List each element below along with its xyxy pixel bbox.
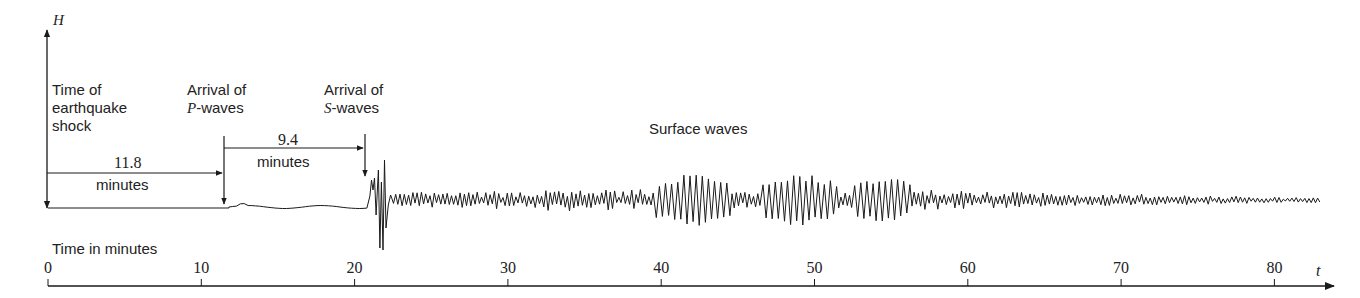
tick-label: 20 xyxy=(347,259,363,277)
tick-label: 10 xyxy=(193,259,209,277)
p-symbol: P xyxy=(187,100,196,116)
tick-label: 70 xyxy=(1113,259,1129,277)
s-symbol: S xyxy=(324,100,332,116)
interval1-value: 11.8 xyxy=(114,154,141,172)
interval1-unit: minutes xyxy=(96,176,149,194)
shock-label-line1: Time of xyxy=(52,81,127,99)
p-arrival-line1: Arrival of xyxy=(187,81,246,99)
tick-label: 80 xyxy=(1266,259,1282,277)
shock-label-line2: earthquake xyxy=(52,99,127,117)
y-axis-label: H xyxy=(53,11,64,29)
tick-label: 0 xyxy=(44,259,52,277)
interval2-unit: minutes xyxy=(257,153,310,171)
s-waves-text: -waves xyxy=(332,99,380,116)
shock-label: Time of earthquake shock xyxy=(52,81,127,135)
t-axis-label: t xyxy=(1316,262,1320,280)
s-arrival-line1: Arrival of xyxy=(324,81,383,99)
seismogram-figure xyxy=(0,0,1360,298)
s-arrival-line2: S-waves xyxy=(324,99,383,117)
p-waves-text: -waves xyxy=(196,99,244,116)
shock-label-line3: shock xyxy=(52,117,127,135)
p-arrival-line2: P-waves xyxy=(187,99,246,117)
seismogram-trace xyxy=(48,160,1320,250)
surface-waves-label: Surface waves xyxy=(649,120,747,138)
time-axis-ticks xyxy=(48,279,1274,286)
tick-label: 30 xyxy=(500,259,516,277)
tick-label: 40 xyxy=(653,259,669,277)
time-in-minutes-label: Time in minutes xyxy=(52,240,157,258)
interval2-value: 9.4 xyxy=(278,131,298,149)
tick-label: 60 xyxy=(960,259,976,277)
tick-label: 50 xyxy=(807,259,823,277)
s-arrival-label: Arrival of S-waves xyxy=(324,81,383,117)
p-arrival-label: Arrival of P-waves xyxy=(187,81,246,117)
